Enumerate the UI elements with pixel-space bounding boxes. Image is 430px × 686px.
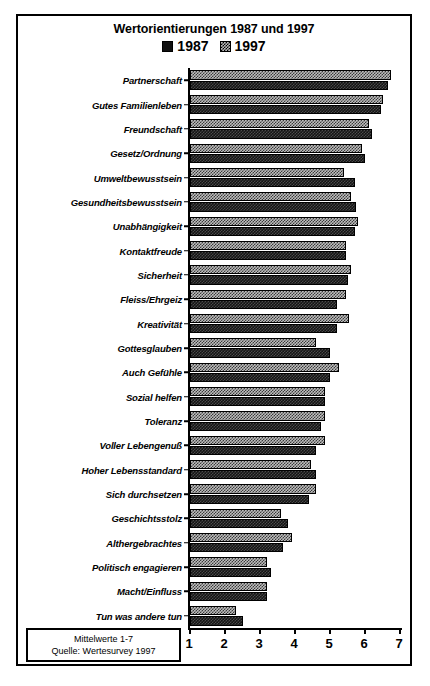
x-axis-tick-label: 4 [290,636,297,651]
bar-1997 [190,290,346,299]
bar-1987 [190,105,381,114]
bar-group [190,606,404,625]
bar-1987 [190,373,330,382]
bar-group [190,557,404,576]
bar-1987 [190,470,316,479]
category-tick-mark [184,201,189,203]
category-label: Sozial helfen [126,391,182,402]
category-tick-mark [184,615,189,617]
bar-1997 [190,265,351,274]
category-tick-mark [184,372,189,374]
legend-entry-1987: 1987 [162,39,208,53]
category-tick-mark [184,250,189,252]
bar-1987 [190,397,325,406]
bar-group [190,314,404,333]
bar-1987 [190,519,288,528]
bar-1987 [190,543,283,552]
bar-1997 [190,168,344,177]
bar-1997 [190,363,339,372]
bar-1997 [190,436,325,445]
category-label: Unabhängigkeit [113,221,182,232]
x-axis-tick-label: 6 [360,636,367,651]
bar-1987 [190,154,365,163]
category-label: Politisch engagieren [92,562,182,573]
category-tick-mark [184,79,189,81]
bar-group [190,70,404,89]
source-note-line-1: Mittelwerte 1-7 [74,633,133,645]
bar-1997 [190,606,236,615]
category-tick-mark [184,542,189,544]
bar-1987 [190,202,356,211]
bar-group [190,217,404,236]
bar-1987 [190,324,337,333]
category-tick-mark [184,177,189,179]
bar-1997 [190,460,311,469]
bar-group [190,119,404,138]
bar-1997 [190,241,346,250]
bar-group [190,533,404,552]
x-axis-tick [224,628,226,634]
category-tick-mark [184,274,189,276]
category-label: Gesetz/Ordnung [110,148,182,159]
bar-group [190,192,404,211]
bar-group [190,338,404,357]
legend-label-1997: 1997 [235,39,266,53]
chart-legend: 1987 1997 [18,39,410,53]
x-axis-tick-label: 1 [185,636,192,651]
category-tick-mark [184,226,189,228]
bar-group [190,436,404,455]
source-note-line-2: Quelle: Wertesurvey 1997 [52,645,156,657]
category-tick-mark [184,518,189,520]
bar-group [190,168,404,187]
legend-entry-1997: 1997 [220,39,266,53]
bars-region [188,68,402,628]
x-axis-tick [294,628,296,634]
bar-1987 [190,616,243,625]
category-label: Macht/Einfluss [117,586,182,597]
bar-1987 [190,422,321,431]
category-axis-labels: PartnerschaftGutes FamilienlebenFreundsc… [18,68,188,628]
category-tick-mark [184,104,189,106]
category-label: Kreativität [137,318,182,329]
legend-label-1987: 1987 [177,39,208,53]
chart-frame: Wertorientierungen 1987 und 1997 1987 19… [16,14,412,666]
category-label: Toleranz [144,416,182,427]
category-tick-mark [184,445,189,447]
bar-1997 [190,144,362,153]
bar-group [190,241,404,260]
x-axis-tick-label: 5 [325,636,332,651]
x-axis-tick [364,628,366,634]
category-label: Voller Lebengenuß [99,440,182,451]
bar-group [190,144,404,163]
plot-area: PartnerschaftGutes FamilienlebenFreundsc… [18,68,410,628]
bar-1997 [190,192,351,201]
category-tick-mark [184,396,189,398]
category-label: Auch Gefühle [122,367,182,378]
bar-1997 [190,411,325,420]
bar-1997 [190,582,267,591]
bar-1987 [190,227,355,236]
bar-group [190,411,404,430]
bar-1997 [190,387,325,396]
bar-1997 [190,533,292,542]
category-tick-mark [184,566,189,568]
category-label: Gesundheitsbewusstsein [71,196,182,207]
category-label: Kontaktfreude [120,245,182,256]
category-label: Gottesglauben [117,343,182,354]
category-label: Partnerschaft [123,75,182,86]
bar-1987 [190,592,267,601]
bar-1987 [190,251,346,260]
category-label: Geschichtsstolz [111,513,182,524]
bar-1997 [190,338,316,347]
bar-1987 [190,348,330,357]
bar-1997 [190,509,281,518]
bar-1987 [190,495,309,504]
category-label: Sicherheit [138,269,182,280]
category-tick-mark [184,128,189,130]
category-tick-mark [184,299,189,301]
bar-1997 [190,557,267,566]
category-label: Freundschaft [124,123,182,134]
category-label: Fleiss/Ehrgeiz [120,294,182,305]
bar-1987 [190,568,271,577]
bar-1987 [190,129,372,138]
